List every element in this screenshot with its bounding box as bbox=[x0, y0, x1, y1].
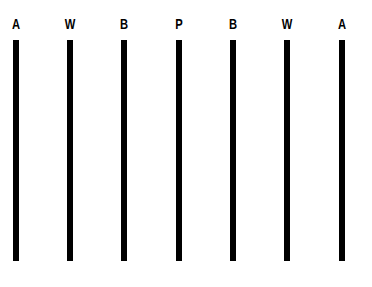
column-label: A bbox=[4, 16, 28, 32]
column-label: B bbox=[112, 16, 136, 32]
vertical-bar bbox=[339, 40, 345, 261]
vertical-bar bbox=[121, 40, 127, 261]
column-label: B bbox=[221, 16, 245, 32]
column-7: A bbox=[327, 0, 357, 287]
column-4: P bbox=[164, 0, 194, 287]
column-2: W bbox=[55, 0, 85, 287]
column-label: W bbox=[58, 16, 82, 32]
column-label: P bbox=[167, 16, 191, 32]
vertical-bar bbox=[67, 40, 73, 261]
vertical-bar bbox=[176, 40, 182, 261]
vertical-bar bbox=[284, 40, 290, 261]
column-6: W bbox=[272, 0, 302, 287]
diagram-canvas: A W B P B W A bbox=[0, 0, 372, 287]
column-1: A bbox=[1, 0, 31, 287]
column-label: W bbox=[275, 16, 299, 32]
vertical-bar bbox=[230, 40, 236, 261]
vertical-bar bbox=[13, 40, 19, 261]
column-label: A bbox=[330, 16, 354, 32]
column-5: B bbox=[218, 0, 248, 287]
column-3: B bbox=[109, 0, 139, 287]
